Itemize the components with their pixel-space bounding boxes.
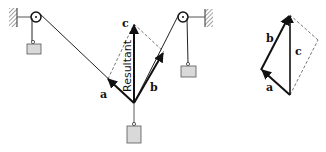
vector-b (134, 53, 163, 103)
label-c: c (122, 17, 129, 30)
triangle-label-b: b (266, 32, 274, 45)
triangle-label-c: c (295, 45, 302, 58)
center-weight-assembly (127, 103, 141, 143)
label-b: b (150, 81, 158, 94)
center-weight (127, 126, 141, 143)
triangle-dashed-upper (290, 15, 318, 40)
label-a: a (100, 88, 107, 101)
right-wall-hatch-icon (205, 9, 213, 27)
label-resultant: Resultant (121, 39, 134, 92)
left-pulley (27, 12, 41, 54)
right-weight (181, 66, 196, 77)
vector-triangle: b c a (261, 15, 318, 95)
force-diagram: c a b Resultant b c a (0, 0, 326, 152)
left-wall-hatch-icon (9, 8, 17, 27)
right-pulley (178, 12, 196, 77)
left-wall-mount (9, 8, 32, 27)
triangle-label-a: a (266, 81, 273, 94)
right-wall-mount (187, 9, 213, 27)
dashed-line-c-to-b (134, 24, 164, 52)
left-weight (27, 44, 41, 54)
